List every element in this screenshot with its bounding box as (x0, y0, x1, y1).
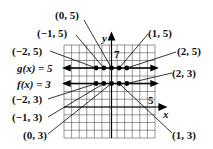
point-m2-3 (94, 81, 99, 86)
point-2-3 (125, 81, 130, 86)
point-m1-5 (101, 66, 106, 71)
label-0-5: (0, 5) (55, 9, 79, 22)
y-axis-label: y (100, 32, 107, 44)
label-1-5: (1, 5) (148, 27, 172, 40)
point-1-3 (117, 81, 122, 86)
label-g-function: g(x) = 5 (16, 62, 53, 75)
y-axis-arrow-icon (109, 33, 115, 40)
label-f-function: f(x) = 3 (17, 78, 51, 91)
grid (64, 45, 155, 138)
label-2-5: (2, 5) (177, 45, 201, 58)
point-0-3 (109, 81, 114, 86)
arrow-right-icon (151, 66, 157, 71)
point-0-5 (109, 66, 114, 71)
arrow-left-icon (64, 81, 70, 86)
x-axis-label: x (162, 108, 169, 120)
point-1-5 (117, 66, 122, 71)
x-tick-label: 5 (148, 94, 154, 106)
label-2-3: (2, 3) (172, 67, 196, 80)
arrow-left-icon (64, 66, 70, 71)
label-m2-3: (−2, 3) (12, 93, 42, 106)
label-m1-5: (−1, 5) (37, 27, 67, 40)
point-m2-5 (94, 66, 99, 71)
point-m1-3 (101, 81, 106, 86)
y-tick-label: 7 (114, 48, 120, 60)
arrow-right-icon (151, 81, 157, 86)
label-m2-5: (−2, 5) (12, 45, 42, 58)
label-m1-3: (−1, 3) (12, 111, 42, 124)
function-graph: (0, 5) (−1, 5) (−2, 5) g(x) = 5 f(x) = 3… (0, 0, 213, 149)
point-2-5 (125, 66, 130, 71)
label-1-3: (1, 3) (172, 129, 196, 142)
label-0-3: (0, 3) (23, 129, 47, 142)
